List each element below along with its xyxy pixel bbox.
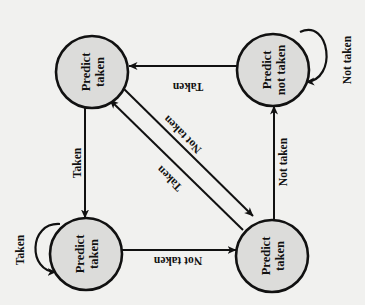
edge-label-taken: Taken	[14, 234, 26, 265]
state-label-line1: Predict	[79, 52, 93, 91]
state-label-line1: Predict	[260, 50, 274, 89]
state-label-line2: taken	[273, 241, 287, 271]
state-diagram: Taken Taken Not taken Not taken Not take…	[0, 0, 365, 305]
state-label-line1: Predict	[259, 236, 273, 275]
edge-label-not-taken: Not taken	[341, 35, 353, 84]
edge-tr-to-tl: Taken	[129, 66, 237, 93]
state-label-line1: Predict	[73, 234, 87, 273]
state-label-line2: not taken	[274, 45, 288, 95]
state-label-line2: taken	[87, 239, 101, 269]
state-bottom-left: Predict taken	[50, 218, 122, 290]
edge-label-taken: Taken	[71, 147, 83, 178]
edge-label-not-taken: Not taken	[153, 255, 202, 267]
diagram-canvas: Taken Taken Not taken Not taken Not take…	[0, 0, 365, 305]
state-top-left: Predict taken	[56, 36, 128, 108]
edge-br-to-tl: Taken	[110, 100, 243, 230]
edge-tl-to-bl: Taken	[71, 108, 85, 218]
state-bottom-right: Predict taken	[236, 220, 308, 292]
edge-label-not-taken: Not taken	[277, 137, 289, 186]
edge-tl-to-br: Not taken	[123, 88, 253, 216]
edge-label-taken: Taken	[172, 81, 203, 93]
edge-bl-to-br: Not taken	[122, 250, 236, 267]
state-label-line2: taken	[93, 57, 107, 87]
edge-label-not-taken: Not taken	[160, 113, 203, 156]
edge-br-to-tr: Not taken	[274, 106, 289, 222]
state-top-right: Predict not taken	[237, 34, 309, 106]
